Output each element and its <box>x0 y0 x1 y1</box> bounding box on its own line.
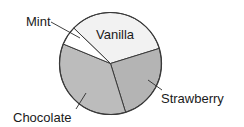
pie-chart: Vanilla Strawberry Chocolate Mint <box>0 0 244 127</box>
label-vanilla: Vanilla <box>96 27 135 42</box>
label-strawberry: Strawberry <box>161 91 224 106</box>
label-chocolate: Chocolate <box>13 110 72 125</box>
label-mint: Mint <box>26 14 51 29</box>
